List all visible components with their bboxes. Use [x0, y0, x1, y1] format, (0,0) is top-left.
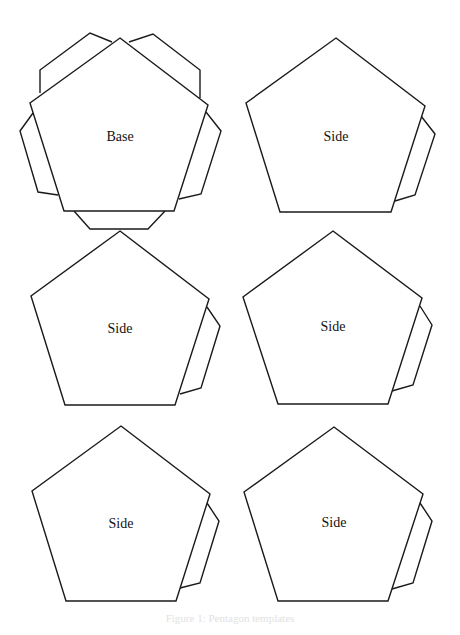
- glue-flap: [74, 211, 165, 229]
- pentagon-net-diagram: BaseSideSideSideSideSide: [0, 0, 460, 635]
- pentagon-face: [244, 427, 423, 601]
- side-piece: Side: [32, 426, 219, 601]
- face-label: Base: [106, 129, 133, 144]
- side-piece: Side: [31, 231, 220, 405]
- face-label: Side: [322, 515, 347, 530]
- face-label: Side: [109, 516, 134, 531]
- pentagon-face: [32, 426, 210, 601]
- pentagon-face: [243, 231, 422, 404]
- figure-caption: Figure 1: Pentagon templates: [0, 612, 460, 624]
- pentagon-face: [31, 231, 209, 405]
- side-piece: Side: [243, 231, 432, 404]
- face-label: Side: [324, 129, 349, 144]
- pentagon-face: [246, 38, 425, 212]
- base-piece: Base: [20, 33, 221, 229]
- side-piece: Side: [244, 427, 432, 601]
- side-piece: Side: [246, 38, 435, 212]
- face-label: Side: [321, 319, 346, 334]
- face-label: Side: [108, 321, 133, 336]
